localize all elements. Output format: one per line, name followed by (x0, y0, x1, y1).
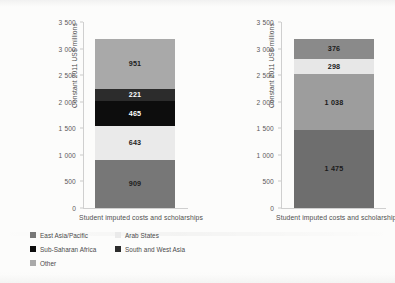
legend-swatch-icon (30, 246, 36, 252)
bar-segment[interactable]: 298 (294, 59, 374, 75)
y-tick-label-left-2000: 2 000 (58, 98, 76, 105)
y-tick-label-right-3000: 3 000 (256, 45, 274, 52)
y-tick-label-right-500: 500 (262, 178, 274, 185)
legend-item[interactable]: Other (30, 256, 115, 270)
x-axis-line-left (83, 208, 188, 209)
legend-swatch-icon (115, 232, 121, 238)
y-tick-label-right-1000: 1 000 (256, 151, 274, 158)
chart-panel-right: Constant 2011 US$ millions 05001 0001 50… (196, 0, 395, 283)
legend-item[interactable]: East Asia/Pacific (30, 228, 115, 242)
legend-item-label: Arab States (125, 232, 159, 239)
legend-swatch-icon (30, 260, 36, 266)
bar-segment-value: 1 475 (325, 164, 344, 173)
bar-segment-value: 221 (129, 90, 142, 99)
y-axis-line-left (83, 22, 84, 208)
bar-segment[interactable]: 909 (95, 160, 175, 208)
legend-item-label: Sub-Saharan Africa (40, 246, 96, 253)
y-tick-label-left-1500: 1 500 (58, 125, 76, 132)
legend-swatch-icon (30, 232, 36, 238)
bar-segment-value: 1 038 (325, 98, 344, 107)
y-tick-label-left-2500: 2 500 (58, 72, 76, 79)
bar-segment-value: 909 (129, 179, 142, 188)
plot-area-left: Constant 2011 US$ millions 05001 0001 50… (46, 14, 190, 214)
y-tick-label-right-3500: 3 500 (256, 19, 274, 26)
bar-segment[interactable]: 221 (95, 89, 175, 101)
y-axis-ticks-right: 05001 0001 5002 0002 5003 0003 500 (244, 14, 278, 214)
legend-item-label: East Asia/Pacific (40, 232, 88, 239)
bar-segment[interactable]: 465 (95, 101, 175, 126)
bar-segment[interactable]: 376 (294, 39, 374, 59)
x-axis-line-right (281, 208, 386, 209)
y-axis-line-right (281, 22, 282, 208)
y-tick-label-right-2500: 2 500 (256, 72, 274, 79)
x-axis-caption-right: Student imputed costs and scholarships (244, 214, 395, 221)
y-tick-label-left-500: 500 (64, 178, 76, 185)
y-tick-label-right-2000: 2 000 (256, 98, 274, 105)
bar-segment-value: 643 (129, 138, 142, 147)
bar-segment-value: 951 (129, 59, 142, 68)
legend-item-label: South and West Asia (125, 246, 185, 253)
bar-segment-value: 465 (129, 109, 142, 118)
y-tick-label-left-0: 0 (72, 205, 76, 212)
legend-left: East Asia/PacificArab StatesSub-Saharan … (30, 228, 200, 270)
plot-area-right: Constant 2011 US$ millions 05001 0001 50… (244, 14, 388, 214)
bar-segment[interactable]: 1 475 (294, 130, 374, 208)
bar-segment[interactable]: 643 (95, 126, 175, 160)
chart-panel-left: Constant 2011 US$ millions 05001 0001 50… (0, 0, 200, 283)
stacked-bar-right[interactable]: 3762981 0381 475 (294, 39, 374, 208)
legend-swatch-icon (115, 246, 121, 252)
legend-item[interactable]: Arab States (115, 228, 200, 242)
legend-item[interactable]: South and West Asia (115, 242, 200, 256)
y-tick-label-right-1500: 1 500 (256, 125, 274, 132)
bar-segment[interactable]: 1 038 (294, 74, 374, 129)
bar-segment[interactable]: 951 (95, 39, 175, 90)
y-tick-label-left-3500: 3 500 (58, 19, 76, 26)
stacked-bar-left[interactable]: 951221465643909 (95, 39, 175, 208)
legend-item-label: Other (40, 260, 56, 267)
bar-segment-value: 376 (328, 44, 341, 53)
legend-item[interactable]: Sub-Saharan Africa (30, 242, 115, 256)
y-tick-label-left-1000: 1 000 (58, 151, 76, 158)
y-axis-ticks-left: 05001 0001 5002 0002 5003 0003 500 (46, 14, 80, 214)
bar-segment-value: 298 (328, 62, 341, 71)
y-tick-label-left-3000: 3 000 (58, 45, 76, 52)
y-tick-label-right-0: 0 (270, 205, 274, 212)
